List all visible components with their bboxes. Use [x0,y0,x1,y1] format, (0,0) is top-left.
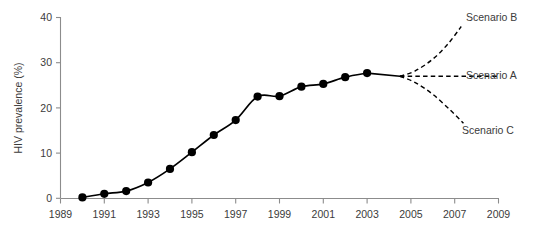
scenario-b-label: Scenario B [466,11,517,23]
x-tick-label-2003: 2003 [355,208,379,220]
observed-prevalence-curve [82,73,400,197]
x-tick-label-2005: 2005 [399,208,423,220]
data-point [275,92,283,100]
data-point [100,190,108,198]
x-tick-label-2007: 2007 [443,208,467,220]
data-point [254,93,262,101]
data-point [232,116,240,124]
hiv-prevalence-chart: 40 30 20 10 0 HIV prevalence (%) 1989 19… [0,0,538,234]
data-point [363,69,371,77]
x-tick-label-2001: 2001 [312,208,336,220]
y-tick-label-10: 10 [40,147,52,159]
chart-canvas: 40 30 20 10 0 HIV prevalence (%) 1989 19… [0,0,538,234]
scenario-c-label: Scenario C [462,124,514,136]
x-tick-label-1995: 1995 [180,208,204,220]
y-tick-label-20: 20 [40,102,52,114]
data-point [78,193,86,201]
data-point [319,80,327,88]
y-axis-ticks [56,18,61,199]
data-point [341,73,349,81]
data-point [210,131,218,139]
y-tick-label-0: 0 [46,192,52,204]
x-tick-label-2009: 2009 [487,208,511,220]
x-axis-ticks [61,199,499,204]
y-tick-label-30: 30 [40,56,52,68]
x-tick-label-1989: 1989 [49,208,73,220]
data-point [188,148,196,156]
x-tick-label-1993: 1993 [136,208,160,220]
data-point [166,165,174,173]
x-tick-label-1997: 1997 [224,208,248,220]
x-tick-label-1999: 1999 [268,208,292,220]
data-point-markers [78,69,371,202]
x-tick-label-1991: 1991 [93,208,117,220]
data-point [122,187,130,195]
scenario-a-label: Scenario A [466,69,517,81]
y-axis-title: HIV prevalence (%) [12,62,24,153]
data-point [297,83,305,91]
y-tick-label-40: 40 [40,11,52,23]
scenario-b-curve [400,27,461,77]
data-point [144,178,152,186]
scenario-c-curve [400,76,464,123]
